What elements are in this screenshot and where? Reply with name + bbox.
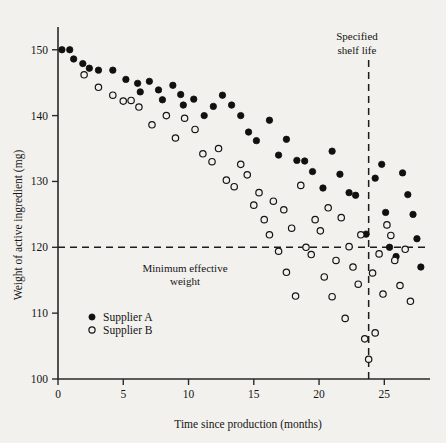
data-point-supplier-a	[352, 192, 358, 198]
data-point-supplier-b	[281, 207, 287, 213]
data-point-supplier-b	[266, 232, 272, 238]
data-point-supplier-a	[294, 157, 300, 163]
data-point-supplier-b	[350, 264, 356, 270]
y-ticklabel-110: 110	[31, 307, 48, 319]
data-point-supplier-b	[288, 225, 294, 231]
data-point-supplier-a	[155, 87, 161, 93]
data-point-supplier-b	[149, 122, 155, 128]
data-point-supplier-a	[67, 47, 73, 53]
shelf-life-label-line2: shelf life	[338, 44, 377, 56]
data-point-supplier-a	[275, 152, 281, 158]
data-point-supplier-b	[128, 97, 134, 103]
data-point-supplier-b	[325, 205, 331, 211]
data-point-supplier-a	[159, 97, 165, 103]
chart-canvas: 1001101201301401500510152025 Minimum eff…	[0, 0, 446, 443]
data-point-supplier-a	[379, 161, 385, 167]
data-point-supplier-a	[266, 117, 272, 123]
data-point-supplier-b	[215, 145, 221, 151]
data-point-supplier-a	[210, 103, 216, 109]
data-point-supplier-a	[418, 264, 424, 270]
legend-marker-supplier-b	[89, 327, 95, 333]
data-point-supplier-a	[59, 47, 65, 53]
data-point-supplier-b	[321, 274, 327, 280]
data-point-supplier-b	[270, 198, 276, 204]
data-point-supplier-a	[253, 137, 259, 143]
data-point-supplier-b	[95, 84, 101, 90]
data-point-supplier-b	[402, 246, 408, 252]
min-effective-label-line2: weight	[170, 275, 200, 287]
y-ticklabel-130: 130	[31, 175, 49, 187]
x-ticklabel-25: 25	[379, 388, 391, 400]
data-point-supplier-b	[120, 98, 126, 104]
data-point-supplier-b	[308, 251, 314, 257]
data-point-supplier-a	[134, 80, 140, 86]
data-point-supplier-a	[405, 191, 411, 197]
data-point-supplier-b	[81, 72, 87, 78]
data-point-supplier-b	[388, 232, 394, 238]
data-point-supplier-b	[209, 159, 215, 165]
y-axis-title: Weight of active ingredient (mg)	[12, 150, 25, 301]
data-point-supplier-a	[410, 211, 416, 217]
data-point-supplier-a	[177, 91, 183, 97]
data-point-supplier-a	[346, 189, 352, 195]
data-point-supplier-a	[123, 76, 129, 82]
data-point-supplier-a	[95, 67, 101, 73]
data-point-supplier-b	[365, 356, 371, 362]
data-point-supplier-a	[191, 96, 197, 102]
data-point-supplier-a	[80, 60, 86, 66]
data-point-supplier-a	[238, 112, 244, 118]
data-point-supplier-a	[228, 102, 234, 108]
data-point-supplier-b	[380, 291, 386, 297]
data-point-supplier-b	[192, 126, 198, 132]
data-point-supplier-b	[251, 202, 257, 208]
data-point-supplier-b	[275, 248, 281, 254]
data-point-supplier-b	[329, 293, 335, 299]
data-point-supplier-a	[110, 67, 116, 73]
plot-background	[0, 0, 446, 443]
data-point-supplier-b	[355, 281, 361, 287]
data-point-supplier-b	[369, 270, 375, 276]
data-point-supplier-a	[386, 244, 392, 250]
data-point-supplier-b	[261, 216, 267, 222]
data-point-supplier-b	[407, 298, 413, 304]
data-point-supplier-b	[181, 115, 187, 121]
data-point-supplier-a	[372, 175, 378, 181]
y-ticklabel-100: 100	[31, 373, 49, 385]
y-ticklabel-150: 150	[31, 44, 49, 56]
data-point-supplier-b	[303, 244, 309, 250]
data-point-supplier-b	[384, 222, 390, 228]
shelf-life-label-line1: Specified	[336, 30, 378, 42]
data-point-supplier-b	[312, 216, 318, 222]
data-point-supplier-b	[238, 161, 244, 167]
data-point-supplier-b	[358, 232, 364, 238]
data-point-supplier-b	[362, 336, 368, 342]
data-point-supplier-a	[86, 65, 92, 71]
data-point-supplier-a	[180, 102, 186, 108]
data-point-supplier-a	[283, 136, 289, 142]
data-point-supplier-a	[301, 158, 307, 164]
data-point-supplier-a	[219, 92, 225, 98]
y-ticklabel-140: 140	[31, 110, 49, 122]
data-point-supplier-a	[245, 129, 251, 135]
x-ticklabel-10: 10	[183, 388, 195, 400]
legend-marker-supplier-a	[89, 314, 95, 320]
data-point-supplier-b	[110, 92, 116, 98]
data-point-supplier-a	[382, 209, 388, 215]
data-point-supplier-b	[231, 184, 237, 190]
data-point-supplier-b	[244, 172, 250, 178]
data-point-supplier-b	[292, 293, 298, 299]
x-ticklabel-20: 20	[313, 388, 325, 400]
legend-label-supplier-b: Supplier B	[103, 324, 153, 337]
data-point-supplier-b	[376, 251, 382, 257]
data-point-supplier-a	[309, 168, 315, 174]
data-point-supplier-a	[137, 89, 143, 95]
data-point-supplier-a	[329, 148, 335, 154]
data-point-supplier-b	[397, 282, 403, 288]
data-point-supplier-b	[223, 177, 229, 183]
data-point-supplier-b	[333, 257, 339, 263]
data-point-supplier-b	[256, 189, 262, 195]
data-point-supplier-a	[70, 56, 76, 62]
data-point-supplier-a	[201, 112, 207, 118]
data-point-supplier-b	[172, 135, 178, 141]
y-ticklabel-120: 120	[31, 241, 49, 253]
